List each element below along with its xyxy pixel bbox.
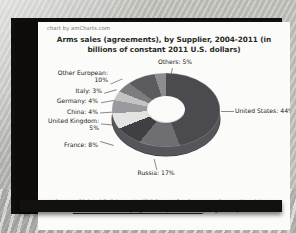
slice-label-united-states: United States: 44% xyxy=(235,107,290,114)
slice-label-others: Others: 5% xyxy=(144,58,206,65)
chart-credit: chart by amCharts.com xyxy=(47,25,110,31)
photo-frame-shadow xyxy=(20,200,282,212)
donut-center-hole xyxy=(147,96,185,123)
slice-label-china: China: 4% xyxy=(44,108,98,115)
slice-label-france: France: 8% xyxy=(44,141,98,148)
pie-chart: Others: 5% United States: 44% Russia: 17… xyxy=(38,55,290,195)
donut-graphic xyxy=(112,73,220,159)
slice-label-united-kingdom: United Kingdom: 5% xyxy=(39,117,99,131)
slice-label-italy: Italy: 3% xyxy=(48,87,102,94)
chart-card: chart by amCharts.com Arms sales (agreem… xyxy=(38,22,290,230)
slice-label-other-european: Other European: 10% xyxy=(46,69,108,83)
leader-line-united-states xyxy=(221,111,234,112)
slice-label-russia: Russia: 17% xyxy=(131,169,181,176)
slice-label-germany: Germany: 4% xyxy=(41,97,98,104)
photo-frame: chart by amCharts.com Arms sales (agreem… xyxy=(11,18,282,214)
chart-title: Arms sales (agreements), by Supplier, 20… xyxy=(44,35,284,54)
